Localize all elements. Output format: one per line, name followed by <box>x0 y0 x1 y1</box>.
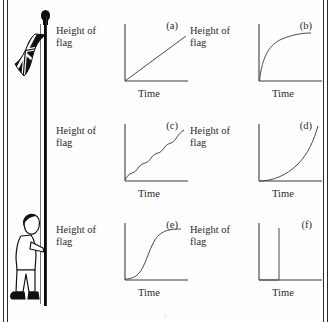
data-curve-e <box>125 229 181 279</box>
plot-panel-e: (e) Time <box>112 217 190 301</box>
graph-label-b: (b) <box>300 20 312 31</box>
graph-e: Height of flag (e) Time <box>56 211 190 308</box>
x-axis-label-c: Time <box>138 188 160 199</box>
x-axis-label-a: Time <box>138 88 160 99</box>
y-axis-label-a: Height of flag <box>56 25 112 48</box>
y-axis-label-b: Height of flag <box>190 25 246 48</box>
data-curve-b <box>260 33 312 81</box>
graph-label-f: (f) <box>302 219 313 230</box>
y-axis-label-c: Height of flag <box>56 125 112 148</box>
y-axis-label-d: Height of flag <box>190 125 246 148</box>
x-axis-label-f: Time <box>272 287 294 298</box>
graph-label-e: (e) <box>166 219 178 230</box>
data-curve-a <box>125 36 186 81</box>
x-axis-label-b: Time <box>272 88 294 99</box>
x-axis-label-e: Time <box>138 287 160 298</box>
plot-panel-d: (d) Time <box>246 118 324 202</box>
boy-hoisting-flag-icon <box>4 212 48 304</box>
plot-panel-f: (f) Time <box>246 217 324 301</box>
graph-grid: Height of flag (a) Time Height of flag <box>56 12 324 312</box>
y-axis-label-f: Height of flag <box>190 224 246 247</box>
data-curve-f <box>259 228 279 280</box>
graph-label-d: (d) <box>300 120 312 131</box>
page-number: 1 <box>0 311 330 319</box>
page-border-right-outer <box>327 0 328 322</box>
graph-d: Height of flag (d) Time <box>190 112 324 209</box>
x-axis-label-d: Time <box>272 188 294 199</box>
plot-panel-c: (c) Time <box>112 118 190 202</box>
data-curve-d <box>259 126 318 181</box>
plot-panel-a: (a) Time <box>112 18 190 102</box>
graph-a: Height of flag (a) Time <box>56 12 190 109</box>
flagpole-illustration <box>0 0 60 322</box>
graph-c: Height of flag (c) Time <box>56 112 190 209</box>
graph-label-a: (a) <box>166 20 178 31</box>
plot-panel-b: (b) Time <box>246 18 324 102</box>
graph-label-c: (c) <box>166 120 178 131</box>
graph-b: Height of flag (b) Time <box>190 12 324 109</box>
graph-f: Height of flag (f) Time <box>190 211 324 308</box>
data-curve-c <box>125 130 184 180</box>
union-jack-flag-icon <box>13 33 47 77</box>
y-axis-label-e: Height of flag <box>56 224 112 247</box>
scanned-page: Height of flag (a) Time Height of flag <box>0 0 330 322</box>
